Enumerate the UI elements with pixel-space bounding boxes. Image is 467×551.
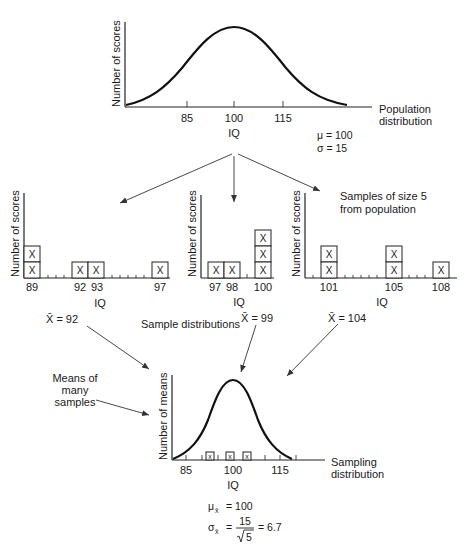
sample1-x-label: IQ	[94, 297, 106, 309]
sample1-y-label: Number of scores	[9, 190, 21, 277]
sample2-y-label: Number of scores	[186, 190, 198, 277]
sample-chart-2: X X X X X Number of scores 97 98 100 IQ …	[186, 190, 274, 324]
sampling-mean-formula: μ x̄ = 100	[208, 500, 253, 514]
x-mark: X	[260, 249, 267, 260]
sampling-ticks	[186, 455, 296, 460]
tick-label: 98	[226, 281, 238, 293]
x-mark: X	[391, 249, 398, 260]
sampling-distribution-diagram: Number of scores 85 100 115 IQ Populatio…	[0, 0, 467, 551]
tick-label: 108	[432, 281, 450, 293]
x-mark: x	[228, 453, 232, 460]
x-mark: x	[245, 453, 249, 460]
x-mark: X	[229, 265, 236, 276]
samples-caption-1: Samples of size 5	[340, 190, 427, 202]
sampling-chart: x x x Number of means 85 100 115 IQ Samp…	[157, 372, 384, 491]
sampling-distribution-label-1: Sampling	[331, 456, 377, 468]
arrow-icon	[287, 324, 338, 376]
arrow-icon	[120, 154, 232, 203]
arrow-icon	[238, 154, 320, 191]
sample1-mean: X̄ = 92	[46, 313, 78, 325]
sample3-y-label: Number of scores	[290, 190, 302, 277]
tick-label: 100	[224, 464, 242, 476]
x-mark: X	[326, 249, 333, 260]
sample-distributions-label: Sample distributions	[141, 318, 241, 330]
arrow-icon	[96, 400, 149, 415]
sigma-symbol: σ	[208, 521, 215, 533]
sampling-normal-curve	[173, 380, 292, 459]
means-note-2: many	[62, 384, 89, 396]
se-value: = 6.7	[258, 521, 282, 533]
arrow-icon	[87, 326, 149, 369]
sample2-x-label: IQ	[233, 296, 245, 308]
sampling-x-label: IQ	[227, 479, 239, 491]
tick-label: 92	[74, 281, 86, 293]
population-normal-curve	[126, 27, 347, 105]
population-distribution-label-2: distribution	[379, 115, 432, 127]
population-distribution-label-1: Population	[379, 103, 431, 115]
sample3-mean: X̄ = 104	[328, 312, 366, 324]
sample2-mean: X̄ = 99	[241, 312, 273, 324]
sampling-y-label: Number of means	[157, 372, 169, 460]
arrow-icon	[241, 325, 256, 372]
samples-caption-2: from population	[340, 203, 416, 215]
x-mark: X	[391, 265, 398, 276]
population-tick-115: 115	[274, 112, 292, 124]
tick-label: 101	[320, 281, 338, 293]
x-mark: X	[29, 249, 36, 260]
tick-label: 85	[180, 464, 192, 476]
x-mark: X	[260, 265, 267, 276]
population-sd: σ = 15	[317, 142, 347, 154]
means-note-1: Means of	[52, 372, 98, 384]
equals-sign: =	[226, 521, 232, 533]
x-mark: X	[213, 265, 220, 276]
tick-label: 97	[209, 281, 221, 293]
x-mark: X	[260, 233, 267, 244]
fraction-denominator: 5	[246, 531, 252, 543]
tick-label: 115	[271, 464, 289, 476]
tick-label: 93	[91, 281, 103, 293]
x-mark: X	[93, 265, 100, 276]
sample3-x-label: IQ	[376, 296, 388, 308]
sampling-se-formula: σ x̄ = 15 5 = 6.7	[208, 515, 282, 543]
tick-label: 105	[385, 281, 403, 293]
sample-chart-1: X X X X X Number of scores 89 92 93 97 I…	[9, 190, 170, 325]
population-tick-85: 85	[181, 112, 193, 124]
population-tick-100: 100	[225, 112, 243, 124]
population-x-label: IQ	[228, 127, 240, 139]
x-mark: x	[208, 453, 212, 460]
tick-label: 97	[154, 281, 166, 293]
tick-label: 89	[26, 281, 38, 293]
fraction-numerator: 15	[239, 515, 251, 527]
x-mark: X	[157, 265, 164, 276]
mu-symbol: μ	[208, 500, 214, 512]
population-y-label: Number of scores	[110, 20, 122, 107]
population-chart: Number of scores 85 100 115 IQ Populatio…	[110, 20, 432, 154]
mu-value: = 100	[226, 500, 253, 512]
x-mark: X	[77, 265, 84, 276]
sampling-distribution-label-2: distribution	[331, 468, 384, 480]
mu-subscript: x̄	[215, 507, 219, 514]
means-note-3: samples	[55, 396, 96, 408]
sigma-subscript: x̄	[215, 528, 219, 535]
population-mean: μ = 100	[317, 129, 353, 141]
x-mark: X	[438, 265, 445, 276]
x-mark: X	[326, 265, 333, 276]
x-mark: X	[29, 265, 36, 276]
tick-label: 100	[254, 281, 272, 293]
means-to-sampling-arrows	[87, 324, 338, 415]
